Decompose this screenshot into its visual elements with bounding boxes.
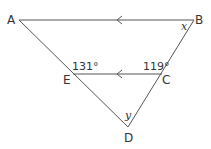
angle-label-C: 119° — [143, 60, 170, 73]
triangle-diagram: A B E C D 131° 119° x y — [0, 0, 211, 149]
angle-label-D: y — [124, 109, 132, 122]
point-label-D: D — [124, 131, 133, 145]
angle-label-E: 131° — [72, 60, 99, 73]
point-label-B: B — [195, 13, 203, 27]
angle-label-B: x — [181, 20, 188, 33]
point-label-C: C — [162, 73, 170, 87]
point-label-A: A — [7, 13, 16, 27]
point-label-E: E — [63, 73, 71, 87]
